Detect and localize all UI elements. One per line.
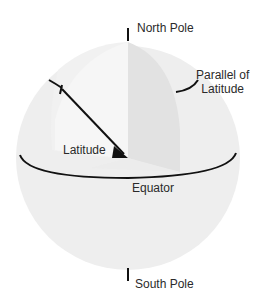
globe-diagram: North Pole Parallel of Latitude Latitude… xyxy=(0,0,271,307)
parallel-of-latitude-label: Parallel of Latitude xyxy=(196,68,249,96)
globe-graphic xyxy=(0,0,271,307)
equator-label: Equator xyxy=(132,181,174,195)
south-pole-label: South Pole xyxy=(135,277,194,291)
latitude-label: Latitude xyxy=(63,143,106,157)
north-pole-label: North Pole xyxy=(137,21,194,35)
parallel-label-line1: Parallel of xyxy=(196,68,249,82)
parallel-label-line2: Latitude xyxy=(196,82,249,96)
